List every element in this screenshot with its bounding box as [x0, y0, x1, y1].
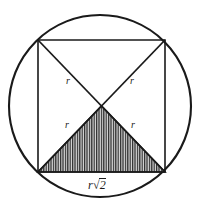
triangle-hatch-fill — [38, 106, 165, 172]
radius-label-lower-right: r — [131, 120, 135, 130]
radius-label-upper-left: r — [66, 76, 70, 86]
base-length-label: r√2 — [88, 178, 106, 191]
radicand-value: 2 — [99, 178, 106, 191]
radius-label-lower-left: r — [65, 120, 69, 130]
radius-label-upper-right: r — [130, 76, 134, 86]
geometry-figure: r r r r r√2 — [0, 0, 204, 210]
radical-sign-icon: √2 — [93, 178, 107, 191]
shaded-triangle — [38, 106, 165, 172]
